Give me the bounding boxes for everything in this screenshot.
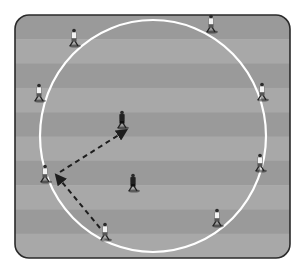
- grass-stripe: [15, 39, 290, 64]
- grass-stripe: [15, 137, 290, 162]
- grass-stripe: [15, 15, 290, 40]
- grass-stripe: [15, 209, 290, 234]
- grass-stripe: [15, 112, 290, 137]
- grass-stripe: [15, 88, 290, 113]
- grass-stripe: [15, 234, 290, 259]
- drill-diagram: [0, 0, 301, 274]
- pitch: [15, 15, 290, 259]
- grass-stripe: [15, 161, 290, 186]
- grass-stripes: [15, 15, 290, 259]
